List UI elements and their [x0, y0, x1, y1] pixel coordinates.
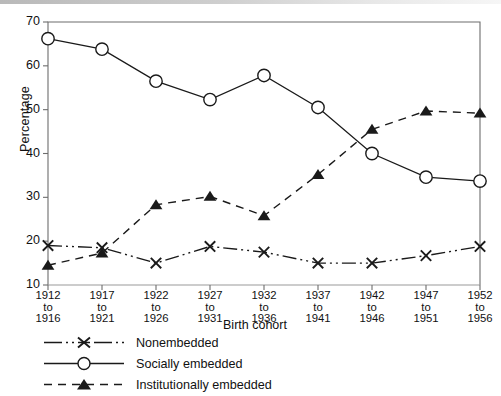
plot-frame — [48, 22, 480, 285]
data-point — [312, 101, 324, 113]
data-point — [204, 93, 216, 105]
series-socially-embedded — [42, 32, 486, 187]
data-point — [420, 105, 433, 115]
data-point — [151, 258, 161, 268]
legend-label-institutionally-embedded: Institutionally embedded — [136, 378, 272, 392]
legend-label-socially-embedded: Socially embedded — [136, 357, 242, 371]
x-marker-icon — [42, 334, 126, 351]
legend-item-socially-embedded: Socially embedded — [42, 355, 372, 372]
y-tick-label: 70 — [6, 14, 40, 28]
data-point — [366, 147, 378, 159]
data-point — [474, 108, 487, 118]
data-point — [474, 175, 486, 187]
data-point — [42, 32, 54, 44]
triangle-marker-icon — [42, 376, 126, 393]
x-tick-label: 1927to1931 — [183, 290, 237, 325]
y-tick-label: 20 — [6, 233, 40, 247]
x-tick-label: 1937to1941 — [291, 290, 345, 325]
data-point — [421, 250, 431, 260]
x-tick-label: 1952to1956 — [453, 290, 501, 325]
y-tick-label: 50 — [6, 102, 40, 116]
y-tick-label: 60 — [6, 58, 40, 72]
y-tick-label: 30 — [6, 189, 40, 203]
data-point — [150, 75, 162, 87]
data-point — [366, 124, 379, 134]
series-institutionally-embedded — [42, 105, 487, 269]
legend-item-nonembedded: Nonembedded — [42, 334, 372, 351]
x-tick-label: 1932to1936 — [237, 290, 291, 325]
data-point — [258, 69, 270, 81]
y-axis-title: Percentage — [18, 54, 32, 184]
data-point — [96, 43, 108, 55]
data-point — [205, 241, 215, 251]
data-point — [204, 191, 217, 201]
x-tick-label: 1912to1916 — [21, 290, 75, 325]
legend-label-nonembedded: Nonembedded — [136, 336, 219, 350]
x-tick-label: 1922to1926 — [129, 290, 183, 325]
x-tick-label: 1942to1946 — [345, 290, 399, 325]
circle-marker-icon — [42, 355, 126, 372]
legend-item-institutionally-embedded: Institutionally embedded — [42, 376, 372, 393]
y-tick-label: 40 — [6, 146, 40, 160]
x-tick-label: 1947to1951 — [399, 290, 453, 325]
data-point — [420, 171, 432, 183]
x-tick-label: 1917to1921 — [75, 290, 129, 325]
data-series-group — [42, 32, 487, 269]
chart-legend: Nonembedded Socially embedded Institutio… — [42, 334, 372, 396]
series-nonembedded — [43, 240, 485, 268]
